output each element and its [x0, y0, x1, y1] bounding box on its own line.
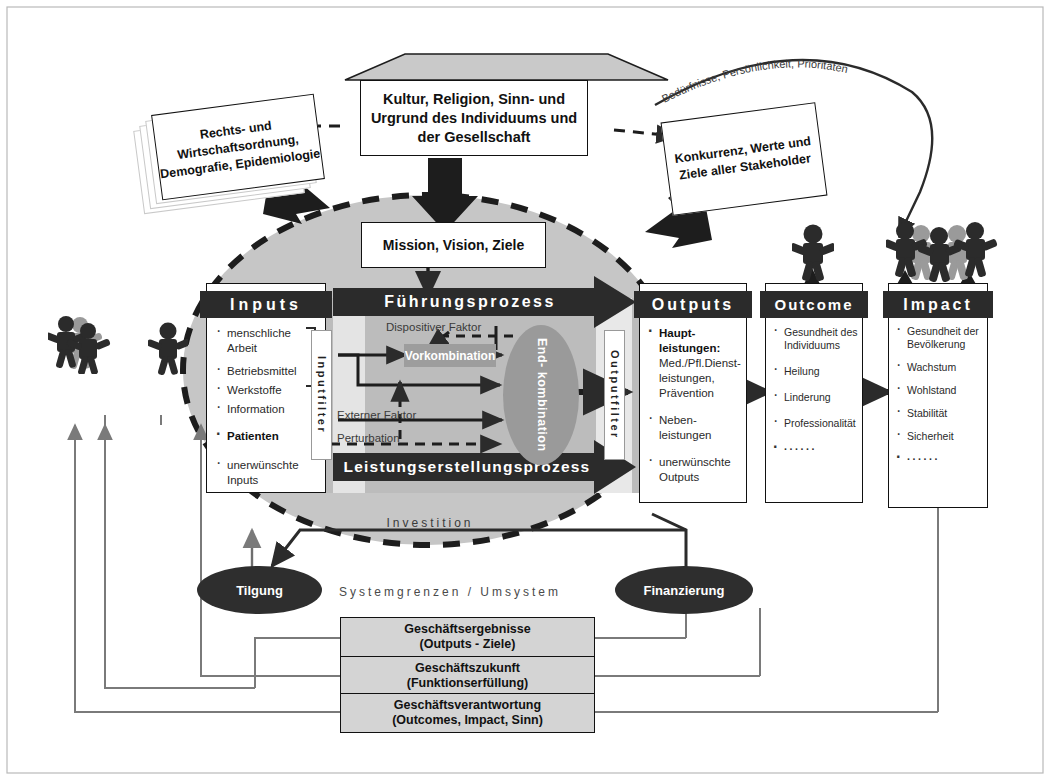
list-item: Werkstoffe: [213, 383, 319, 398]
list-item: ······: [893, 453, 983, 466]
right-card-label: Konkurrenz, Werte und Ziele aller Stakeh…: [665, 132, 822, 186]
list-item: menschliche Arbeit: [213, 326, 319, 356]
list-item: unerwünschte Outputs: [645, 455, 741, 485]
curve-label-text: Bedürfnisse, Persönlichkeit, Prioritäten: [660, 57, 849, 104]
mission-box: Mission, Vision, Ziele: [361, 222, 546, 268]
outputs-body: Haupt- leistungen: Med./Pfl.Dienst- leis…: [639, 318, 747, 503]
externer-faktor-label: Externer Faktor: [337, 409, 457, 421]
bottom-box-text: Geschäftsergebnisse (Outputs - Ziele): [404, 622, 530, 652]
list-item: Professionalität: [770, 417, 858, 430]
list-item: Sicherheit: [893, 430, 983, 443]
systemgrenzen-label: Systemgrenzen / Umsystem: [330, 582, 570, 600]
bottom-box-line1: Geschäftszukunft: [407, 661, 529, 676]
outcome-header: Outcome: [760, 291, 868, 318]
dispositiver-faktor-label: Dispositiver Faktor: [386, 321, 516, 333]
left-card-label: Rechts- und Wirtschaftsordnung, Demograf…: [154, 111, 321, 183]
list-item: Heilung: [770, 365, 858, 378]
vorkombination-label: Vorkombination: [405, 349, 495, 363]
outcome-header-label: Outcome: [774, 296, 853, 313]
tilgung-ellipse: Tilgung: [197, 566, 322, 614]
mission-label: Mission, Vision, Ziele: [383, 237, 524, 253]
bottom-box-line2: (Outcomes, Impact, Sinn): [392, 713, 543, 728]
endkombination-label: End- kombination: [534, 338, 549, 452]
list-item: unerwünschte Inputs: [213, 458, 319, 488]
inputs-header-label: Inputs: [230, 296, 302, 314]
impact-header-label: Impact: [903, 296, 973, 314]
inputs-list: menschliche Arbeit Betriebsmittel Werkst…: [213, 326, 319, 488]
bottom-box-geschaeftsverantwortung: Geschäftsverantwortung (Outcomes, Impact…: [340, 693, 595, 733]
investition-label: Investition: [330, 513, 530, 531]
person-icon: [148, 320, 188, 376]
list-item: Neben- leistungen: [645, 413, 741, 443]
bottom-box-line2: (Outputs - Ziele): [404, 637, 530, 652]
bottom-box-line1: Geschäftsergebnisse: [404, 622, 530, 637]
list-item: Gesundheit der Bevölkerung: [893, 325, 983, 351]
inputfilter-label: Inputfilter: [311, 330, 332, 460]
list-item: Haupt- leistungen:: [645, 326, 741, 356]
systemgrenzen-text: Systemgrenzen / Umsystem: [339, 585, 561, 599]
people-icon-group: [886, 220, 998, 282]
list-item: Wohlstand: [893, 384, 983, 397]
tilgung-label: Tilgung: [236, 583, 283, 598]
person-icon: [792, 222, 834, 282]
list-item: Patienten: [213, 429, 319, 444]
person-icon-single-left: [148, 320, 188, 376]
outputs-header: Outputs: [634, 291, 752, 318]
fuehrungsprozess-text: Führungsprozess: [384, 293, 556, 311]
people-icon-group: [48, 314, 138, 374]
inputs-header: Inputs: [200, 291, 332, 318]
roof-shape: [345, 54, 668, 80]
list-item: Stabilität: [893, 407, 983, 420]
impact-body: Gesundheit der Bevölkerung Wachstum Wohl…: [888, 318, 988, 508]
people-group-left: [48, 314, 138, 374]
vorkombination-box: Vorkombination: [404, 344, 496, 367]
fb1-seg: [255, 638, 340, 688]
finanzierung-label: Finanzierung: [644, 583, 725, 598]
left-context-card-stack: Rechts- und Wirtschaftsordnung, Demograf…: [132, 98, 322, 222]
outcome-body: Gesundheit des Individuums Heilung Linde…: [765, 318, 863, 503]
bottom-box-geschaeftszukunft: Geschäftszukunft (Funktionserfüllung): [340, 656, 595, 696]
diagram-canvas: Bedürfnisse, Persönlichkeit, Prioritäten: [0, 0, 1050, 780]
bottom-box-line1: Geschäftsverantwortung: [392, 698, 543, 713]
outputs-column: Outputs Haupt- leistungen: Med./Pfl.Dien…: [634, 283, 752, 503]
list-item: Information: [213, 402, 319, 417]
leistungserstellungsprozess-label: Leistungserstellungsprozess: [336, 454, 598, 480]
investition-text: Investition: [386, 516, 473, 530]
impact-header: Impact: [883, 291, 993, 318]
outputs-header-label: Outputs: [652, 296, 734, 314]
people-group-impact: [886, 220, 998, 282]
endkombination-ellipse: End- kombination: [503, 325, 579, 465]
list-item: Wachstum: [893, 361, 983, 374]
bottom-box-line2: (Funktionserfüllung): [407, 676, 529, 691]
list-item-sub: Med./Pfl.Dienst- leistungen, Prävention: [645, 356, 741, 401]
impact-column: Impact Gesundheit der Bevölkerung Wachst…: [883, 283, 993, 508]
impact-list: Gesundheit der Bevölkerung Wachstum Wohl…: [893, 325, 983, 466]
list-item: Gesundheit des Individuums: [770, 326, 858, 352]
outputs-list: Haupt- leistungen: Med./Pfl.Dienst- leis…: [645, 326, 741, 485]
list-item: Betriebsmittel: [213, 364, 319, 379]
roof-label: Kultur, Religion, Sinn- und Urgrund des …: [361, 90, 587, 147]
roof-box: Kultur, Religion, Sinn- und Urgrund des …: [360, 80, 588, 156]
finanzierung-ellipse: Finanzierung: [615, 566, 753, 614]
list-item: ······: [770, 443, 858, 456]
outputfilter-text: Outputfilter: [609, 350, 621, 440]
inputfilter-text: Inputfilter: [316, 356, 328, 434]
bottom-box-text: Geschäftszukunft (Funktionserfüllung): [407, 661, 529, 691]
outcome-list: Gesundheit des Individuums Heilung Linde…: [770, 326, 858, 456]
list-item: Linderung: [770, 391, 858, 404]
bottom-box-geschaeftsergebnisse: Geschäftsergebnisse (Outputs - Ziele): [340, 617, 595, 657]
outputfilter-label: Outputfilter: [604, 330, 625, 460]
person-icon-outcome: [792, 222, 834, 282]
perturbation-label: Perturbation: [337, 432, 447, 444]
bottom-box-text: Geschäftsverantwortung (Outcomes, Impact…: [392, 698, 543, 728]
outcome-column: Outcome Gesundheit des Individuums Heilu…: [760, 283, 868, 503]
fuehrungsprozess-label: Führungsprozess: [345, 289, 595, 315]
